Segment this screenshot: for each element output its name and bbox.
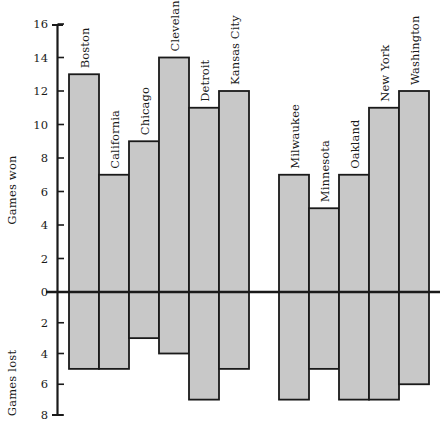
axis-tick-label-won-12: 12 bbox=[33, 84, 48, 98]
chart-container: 02468101214162468 BostonCaliforniaChicag… bbox=[0, 0, 446, 423]
bar-won-new-york bbox=[369, 108, 399, 292]
bar-lost-minnesota bbox=[309, 292, 339, 369]
axis-tick-label-won-2: 2 bbox=[41, 252, 48, 266]
bar-won-washington bbox=[399, 91, 429, 292]
bar-category-label: Washington bbox=[408, 15, 422, 85]
bar-won-chicago bbox=[129, 141, 159, 292]
bar-category-label: New York bbox=[378, 44, 392, 102]
bar-lost-washington bbox=[399, 292, 429, 384]
bar-won-cleveland bbox=[159, 58, 189, 293]
bar-won-detroit bbox=[189, 108, 219, 292]
bar-category-label: Cleveland bbox=[168, 0, 182, 52]
bar-lost-oakland bbox=[339, 292, 369, 400]
bar-category-label: Chicago bbox=[138, 87, 152, 135]
bar-category-label: Milwaukee bbox=[288, 104, 302, 169]
bar-category-label: Kansas City bbox=[228, 15, 242, 85]
bar-lost-new-york bbox=[369, 292, 399, 400]
bar-lost-detroit bbox=[189, 292, 219, 400]
axis-tick-label-won-4: 4 bbox=[41, 218, 48, 232]
bar-chart: 02468101214162468 BostonCaliforniaChicag… bbox=[0, 0, 446, 423]
bar-won-oakland bbox=[339, 175, 369, 292]
bar-category-label: Detroit bbox=[198, 59, 212, 101]
axis-tick-label-won-6: 6 bbox=[41, 185, 48, 199]
axis-tick-label-lost-8: 8 bbox=[41, 408, 48, 422]
bar-lost-kansas-city bbox=[219, 292, 249, 369]
axis-tick-label-won-8: 8 bbox=[41, 151, 48, 165]
bar-lost-boston bbox=[69, 292, 99, 369]
bar-won-milwaukee bbox=[279, 175, 309, 292]
bar-category-label: Boston bbox=[78, 27, 92, 68]
bar-won-boston bbox=[69, 74, 99, 292]
bar-won-minnesota bbox=[309, 208, 339, 292]
bar-lost-milwaukee bbox=[279, 292, 309, 400]
axis-tick-label-won-16: 16 bbox=[33, 17, 48, 31]
axis-tick-label-won-10: 10 bbox=[33, 118, 48, 132]
bar-lost-california bbox=[99, 292, 129, 369]
bar-lost-chicago bbox=[129, 292, 159, 338]
axis-tick-label-won-14: 14 bbox=[33, 51, 48, 65]
axis-tick-label-lost-2: 2 bbox=[41, 316, 48, 330]
bar-category-label: Minnesota bbox=[318, 140, 332, 202]
bar-won-kansas-city bbox=[219, 91, 249, 292]
bar-won-california bbox=[99, 175, 129, 292]
y-axis-title-games-lost: Games lost bbox=[5, 350, 19, 417]
bar-lost-cleveland bbox=[159, 292, 189, 354]
axis-tick-label-lost-4: 4 bbox=[41, 347, 48, 361]
axis-tick-label-lost-6: 6 bbox=[41, 377, 48, 391]
bar-category-label: Oakland bbox=[348, 119, 362, 169]
axis-tick-label-won-0: 0 bbox=[41, 285, 48, 299]
bar-category-label: California bbox=[108, 110, 122, 169]
y-axis-title-games-won: Games won bbox=[5, 155, 19, 225]
